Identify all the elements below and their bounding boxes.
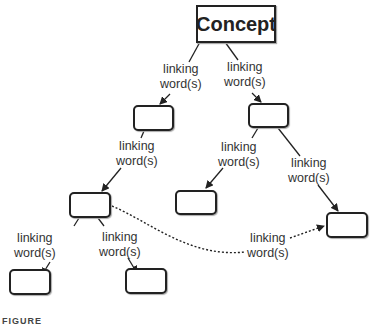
label-line: word(s)	[14, 246, 56, 261]
edge-line	[225, 42, 238, 60]
edge-line	[141, 131, 144, 138]
label-line: linking	[160, 62, 202, 77]
crosslink-arrow	[290, 226, 324, 238]
label-line: linking	[14, 231, 56, 246]
linking-label: linkingword(s)	[247, 231, 289, 261]
edge-arrow	[318, 185, 338, 211]
label-line: linking	[99, 230, 141, 245]
linking-label: linkingword(s)	[218, 140, 260, 170]
edge-line	[252, 128, 258, 138]
label-line: word(s)	[116, 154, 158, 169]
node-r2a	[175, 190, 217, 215]
node-l3b	[125, 268, 167, 294]
label-line: word(s)	[288, 171, 330, 186]
edge-line	[74, 218, 79, 226]
label-line: word(s)	[224, 75, 266, 90]
label-line: word(s)	[247, 246, 289, 261]
concept-node: Concept	[196, 5, 276, 43]
linking-label: linkingword(s)	[224, 60, 266, 90]
label-line: linking	[116, 139, 158, 154]
label-line: word(s)	[99, 245, 141, 260]
linking-label: linkingword(s)	[99, 230, 141, 260]
edge-line	[189, 42, 200, 62]
edge-line	[98, 218, 104, 226]
node-l2	[69, 192, 111, 218]
figure-caption: FIGURE	[2, 316, 42, 326]
linking-label: linkingword(s)	[14, 231, 56, 261]
label-line: linking	[288, 156, 330, 171]
edge-arrow	[160, 94, 170, 104]
node-r2b	[326, 212, 368, 238]
linking-label: linkingword(s)	[288, 156, 330, 186]
linking-label: linkingword(s)	[160, 62, 202, 92]
node-r1	[248, 103, 289, 128]
node-l1	[133, 105, 174, 131]
label-line: linking	[224, 60, 266, 75]
edge-arrow	[252, 93, 261, 102]
label-line: word(s)	[160, 77, 202, 92]
edge-line	[278, 128, 300, 156]
label-line: linking	[247, 231, 289, 246]
edge-arrow	[102, 168, 121, 191]
label-line: word(s)	[218, 155, 260, 170]
label-line: linking	[218, 140, 260, 155]
node-l3a	[9, 269, 51, 295]
edge-arrow	[206, 168, 223, 188]
linking-label: linkingword(s)	[116, 139, 158, 169]
